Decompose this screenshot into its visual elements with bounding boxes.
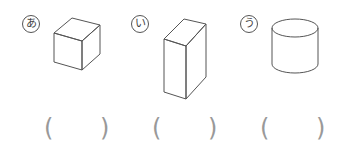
- cube-icon: [50, 15, 105, 75]
- cylinder-icon: [270, 15, 325, 77]
- label-a: あ: [22, 15, 40, 33]
- answer-a-close: ): [100, 116, 109, 140]
- answer-u-close: ): [316, 116, 325, 140]
- answer-a-open: (: [44, 116, 53, 140]
- answer-u-open: (: [260, 116, 269, 140]
- label-u: う: [240, 15, 258, 33]
- answer-i-open: (: [152, 116, 161, 140]
- rectangular-prism-icon: [160, 15, 210, 105]
- label-i: い: [131, 15, 149, 33]
- answer-i-close: ): [208, 116, 217, 140]
